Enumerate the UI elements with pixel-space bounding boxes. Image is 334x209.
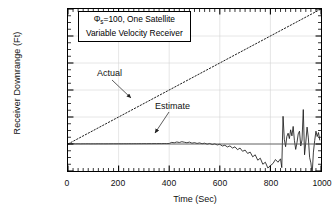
annotation-actual: Actual bbox=[97, 68, 122, 78]
chart-figure: Receiver Downrange (Ft) Time (Sec) -2000… bbox=[0, 0, 334, 209]
x-tick-label: 200 bbox=[111, 178, 125, 188]
x-tick-label: 1000 bbox=[312, 178, 331, 188]
chart-title-box: Φs=100, One Satellite Variable Velocity … bbox=[78, 11, 191, 42]
title-line-2: Variable Velocity Receiver bbox=[86, 28, 183, 39]
x-tick-label: 600 bbox=[213, 178, 227, 188]
title-line-1: Φs=100, One Satellite bbox=[86, 14, 183, 28]
x-tick-label: 800 bbox=[264, 178, 278, 188]
annotation-estimate: Estimate bbox=[155, 101, 190, 111]
title-line-1-rest: =100, One Satellite bbox=[104, 14, 175, 24]
x-tick-label: 0 bbox=[65, 178, 70, 188]
x-tick-label: 400 bbox=[162, 178, 176, 188]
